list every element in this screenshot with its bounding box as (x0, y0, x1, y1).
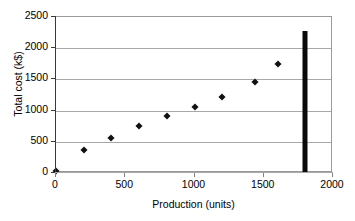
y-axis-tick-label: 1000 (2, 104, 48, 114)
x-axis-tick (332, 173, 333, 177)
y-axis-tick-label: 2000 (2, 41, 48, 51)
data-point (136, 123, 143, 130)
data-point (108, 134, 115, 141)
data-point (191, 103, 198, 110)
x-axis-tick (263, 173, 264, 177)
y-axis-tick (51, 78, 55, 79)
y-axis-title: Total cost (k$) (12, 14, 24, 154)
x-axis-tick-label: 1500 (240, 179, 286, 190)
y-axis-tick (51, 47, 55, 48)
x-axis-tick (194, 173, 195, 177)
y-axis-tick-label: 1500 (2, 72, 48, 82)
data-point (163, 112, 170, 119)
x-axis-tick (124, 173, 125, 177)
gridline (56, 142, 331, 143)
x-axis-title: Production (units) (55, 198, 332, 210)
scatter-chart: Total cost (k$) 05001000150020002500 050… (0, 0, 355, 221)
y-axis-tick-label: 500 (2, 135, 48, 145)
plot-area (55, 16, 332, 172)
y-axis-tick (51, 110, 55, 111)
capacity-bar (303, 31, 308, 173)
x-axis-tick-label: 1000 (171, 179, 217, 190)
data-point (274, 60, 281, 67)
gridline (56, 48, 331, 49)
data-point (80, 146, 87, 153)
y-axis-tick-label: 2500 (2, 10, 48, 20)
x-axis-tick-label: 0 (32, 179, 78, 190)
gridline (56, 111, 331, 112)
x-axis-tick-label: 2000 (309, 179, 355, 190)
y-axis-tick (51, 16, 55, 17)
data-point (219, 93, 226, 100)
y-axis-line (55, 16, 56, 173)
x-axis-tick (55, 173, 56, 177)
x-axis-tick-label: 500 (101, 179, 147, 190)
y-axis-tick-label: 0 (2, 166, 48, 176)
gridline (56, 79, 331, 80)
y-axis-tick (51, 141, 55, 142)
